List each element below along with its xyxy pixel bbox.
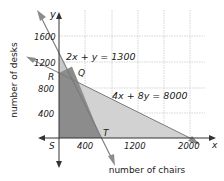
y-axis-title: number of desks (9, 42, 19, 118)
y-axis-letter: y (49, 9, 57, 20)
x-tick-400: 400 (77, 141, 93, 151)
y-arrow-down (56, 161, 62, 168)
arrow-head-top (37, 10, 46, 21)
x-tick-1200: 1200 (124, 141, 146, 151)
x-axis-letter: x (211, 140, 218, 150)
equation-1: 2x + y = 1300 (66, 51, 135, 62)
graph: y x 1600 1200 800 400 400 1200 2000 S R … (0, 0, 224, 181)
vertex-r: R (48, 72, 54, 82)
equation-2: 4x + 8y = 8000 (112, 90, 188, 101)
y-tick-1200: 1200 (34, 58, 56, 68)
y-tick-800: 800 (38, 84, 54, 94)
x-tick-2000: 2000 (178, 141, 200, 151)
vertex-s: S (49, 141, 55, 151)
y-arrow-up (56, 12, 62, 19)
x-axis-title: number of chairs (109, 165, 186, 175)
y-tick-400: 400 (38, 109, 54, 119)
vertex-q: Q (78, 68, 85, 78)
y-tick-1600: 1600 (34, 32, 56, 42)
x-arrow-left (38, 135, 45, 141)
